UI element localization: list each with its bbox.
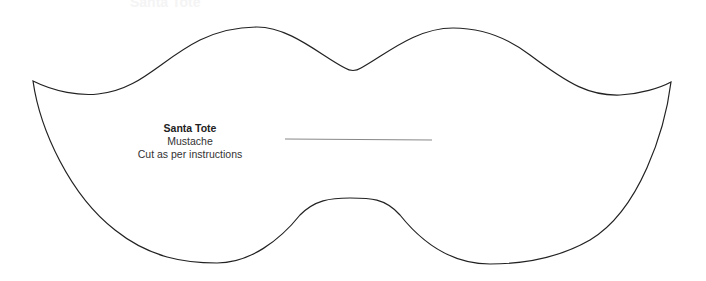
cut-instructions: Cut as per instructions: [120, 148, 260, 161]
template-title: Santa Tote: [120, 122, 260, 135]
template-subtitle: Mustache: [120, 135, 260, 148]
template-label: Santa Tote Mustache Cut as per instructi…: [120, 122, 260, 161]
mustache-template-outline: [0, 0, 706, 281]
center-fold-line: [285, 139, 432, 140]
